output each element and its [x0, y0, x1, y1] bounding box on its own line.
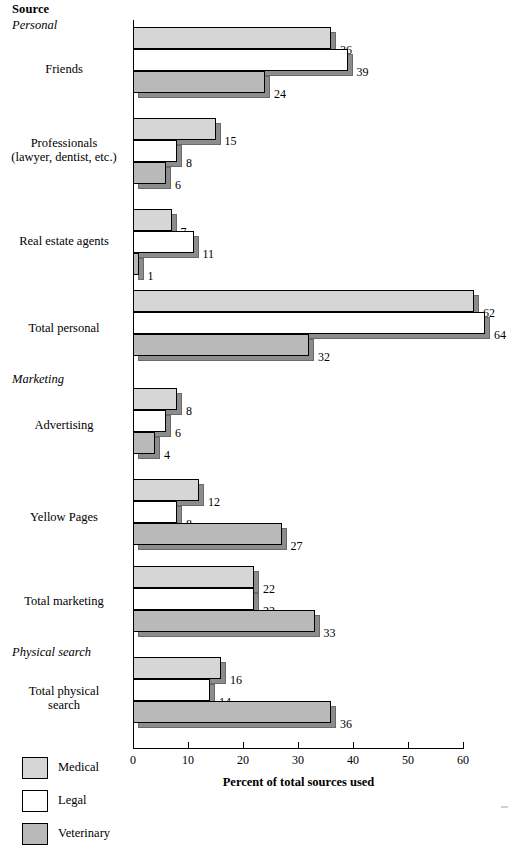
bar-face — [133, 253, 139, 275]
legend-label: Legal — [58, 793, 86, 808]
bar-face — [133, 49, 348, 71]
bar-face — [133, 588, 254, 610]
group-header-physical-search: Physical search — [12, 645, 91, 660]
legend-label: Veterinary — [58, 826, 110, 841]
bar-value-label: 16 — [230, 673, 242, 688]
bar-shadow — [138, 258, 144, 280]
group-header-marketing: Marketing — [12, 372, 64, 387]
bar-veterinary — [133, 71, 270, 98]
category-label: Professionals (lawyer, dentist, etc.) — [0, 136, 128, 164]
bar-face — [133, 701, 331, 723]
bar-value-label: 33 — [324, 626, 336, 641]
category-label: Advertising — [0, 418, 128, 432]
category-label: Friends — [0, 62, 128, 76]
x-axis-tick — [133, 742, 134, 749]
bar-veterinary — [133, 432, 160, 459]
bar-face — [133, 410, 166, 432]
legend-label: Medical — [58, 760, 99, 775]
legend-item-legal[interactable]: Legal — [22, 790, 142, 814]
legend-item-medical[interactable]: Medical — [22, 757, 142, 781]
bar-face — [133, 566, 254, 588]
bar-face — [133, 209, 172, 231]
x-axis-tick — [243, 742, 244, 749]
bar-value-label: 27 — [291, 539, 303, 554]
bar-veterinary — [133, 610, 320, 637]
bar-value-label: 39 — [357, 65, 369, 80]
bar-veterinary — [133, 523, 287, 550]
bar-veterinary — [133, 253, 144, 280]
legend-swatch — [22, 823, 48, 845]
bar-value-label: 6 — [175, 426, 181, 441]
bar-value-label: 11 — [203, 247, 215, 262]
legend-swatch — [22, 757, 48, 779]
bar-veterinary — [133, 162, 171, 189]
x-axis-tick — [408, 742, 409, 749]
bar-chart: Source 0102030405060Percent of total sou… — [0, 0, 520, 857]
legend-item-veterinary[interactable]: Veterinary — [22, 823, 142, 847]
x-axis-title: Percent of total sources used — [133, 775, 464, 790]
bar-value-label: 36 — [340, 717, 352, 732]
bar-face — [133, 523, 282, 545]
category-label: Total physical search — [0, 684, 128, 712]
bar-face — [133, 231, 194, 253]
category-label: Total marketing — [0, 594, 128, 608]
bar-value-label: 1 — [148, 269, 154, 284]
bar-face — [133, 118, 216, 140]
bar-veterinary — [133, 334, 314, 361]
x-axis-tick-label: 10 — [182, 753, 194, 768]
bar-value-label: 64 — [494, 328, 506, 343]
bar-value-label: 22 — [263, 582, 275, 597]
bar-face — [133, 334, 309, 356]
bar-value-label: 12 — [208, 495, 220, 510]
bar-value-label: 15 — [225, 134, 237, 149]
bar-face — [133, 501, 177, 523]
category-label: Total personal — [0, 321, 128, 335]
bar-face — [133, 71, 265, 93]
bar-face — [133, 610, 315, 632]
x-axis-tick — [353, 742, 354, 749]
x-axis-tick — [298, 742, 299, 749]
bar-value-label: 6 — [175, 178, 181, 193]
x-axis-tick-label: 50 — [402, 753, 414, 768]
bar-face — [133, 140, 177, 162]
x-axis-tick-label: 20 — [237, 753, 249, 768]
bar-face — [133, 27, 331, 49]
bar-value-label: 24 — [274, 87, 286, 102]
bar-face — [133, 162, 166, 184]
x-axis-tick — [188, 742, 189, 749]
bar-face — [133, 388, 177, 410]
x-axis-tick-label: 60 — [457, 753, 469, 768]
x-axis-tick — [463, 742, 464, 749]
bar-value-label: 8 — [186, 156, 192, 171]
bar-face — [133, 657, 221, 679]
x-axis-tick-label: 40 — [347, 753, 359, 768]
bar-face — [133, 679, 210, 701]
x-axis-tick-label: 30 — [292, 753, 304, 768]
bar-face — [133, 479, 199, 501]
bar-face — [133, 432, 155, 454]
bar-value-label: 32 — [318, 350, 330, 365]
category-label: Yellow Pages — [0, 510, 128, 524]
bar-face — [133, 312, 485, 334]
legend-swatch — [22, 790, 48, 812]
category-label: Real estate agents — [0, 234, 128, 248]
group-header-personal: Personal — [12, 18, 57, 33]
bar-value-label: 4 — [164, 448, 170, 463]
bar-value-label: 8 — [186, 404, 192, 419]
bar-veterinary — [133, 701, 336, 728]
bar-face — [133, 290, 474, 312]
page-artifact — [501, 806, 508, 808]
